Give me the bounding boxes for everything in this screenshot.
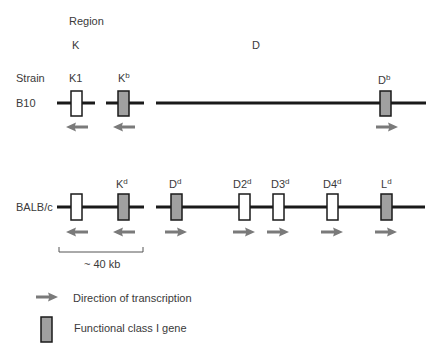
gene-box-d2d [239, 194, 250, 220]
gene-label-d4d: D4d [323, 178, 342, 190]
scale-bar [59, 247, 143, 252]
gene-label-dd: Dd [169, 178, 181, 190]
gene-label-kd: Kd [116, 178, 128, 190]
b10-chromosome [57, 91, 426, 132]
gene-box-db [380, 91, 391, 116]
arrow-right-icon [165, 228, 187, 237]
arrow-left-icon [66, 123, 88, 132]
region-d-label: D [252, 39, 260, 51]
gene-label-ld: Ld [381, 178, 392, 190]
gene-label-kb: Kb [118, 72, 130, 84]
gene-label-d2d: D2d [233, 178, 252, 190]
arrow-right-icon [376, 123, 398, 132]
legend-functional-label: Functional class I gene [74, 322, 187, 334]
arrow-right-icon [233, 228, 255, 237]
arrow-right-icon [267, 228, 289, 237]
gene-box-dd [171, 194, 182, 220]
arrow-right-icon [321, 228, 343, 237]
gene-box-k1 [71, 91, 82, 116]
gene-box-k-unnamed [71, 194, 82, 220]
legend-functional-gene-box-icon [41, 317, 52, 342]
gene-label-k1: K1 [69, 72, 82, 84]
gene-label-db: Db [378, 74, 390, 86]
arrow-left-icon [113, 228, 135, 237]
scale-bar-label: ~ 40 kb [84, 258, 120, 270]
strain-balbc-label: BALB/c [16, 201, 53, 213]
legend-direction-label: Direction of transcription [73, 292, 192, 304]
gene-box-d3d [273, 194, 284, 220]
balbc-chromosome [57, 194, 425, 237]
legend-arrow-right-icon [36, 293, 58, 302]
mhc-map-diagram [0, 0, 437, 355]
gene-box-kb [118, 91, 129, 116]
arrow-left-icon [66, 228, 88, 237]
region-k-label: K [72, 39, 79, 51]
gene-box-kd [118, 194, 129, 220]
gene-box-ld [381, 194, 392, 220]
arrow-left-icon [113, 123, 135, 132]
strain-label: Strain [16, 72, 45, 84]
gene-label-d3d: D3d [271, 178, 290, 190]
strain-b10-label: B10 [16, 97, 36, 109]
region-label: Region [69, 15, 104, 27]
gene-box-d4d [327, 194, 338, 220]
arrow-right-icon [375, 228, 397, 237]
